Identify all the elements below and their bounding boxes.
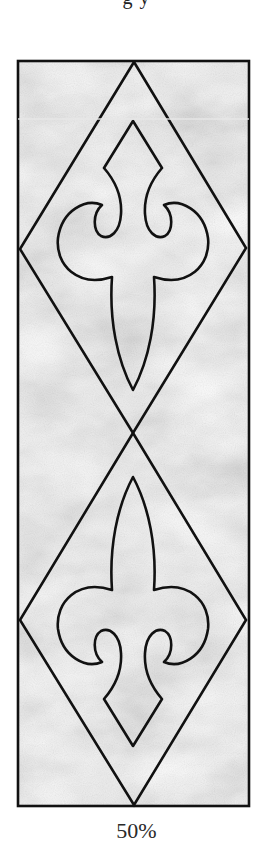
scale-caption: 50% (0, 818, 273, 844)
marble-panel-illustration (0, 0, 273, 868)
